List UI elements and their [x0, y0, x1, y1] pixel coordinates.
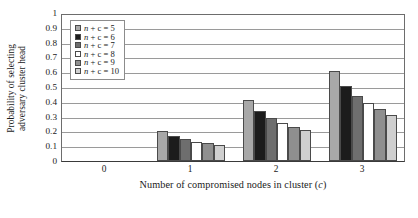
- bar-group: [234, 14, 320, 161]
- legend-swatch: [75, 42, 81, 48]
- y-axis-tick-label: 0: [52, 157, 57, 166]
- y-axis-tick-label: 0.1: [46, 143, 57, 152]
- x-axis-title-main: Number of compromised nodes in cluster (: [140, 179, 319, 190]
- y-axis-tick-label: 0.6: [46, 69, 57, 78]
- bar: [254, 111, 265, 161]
- y-axis-tick-label: 0.9: [46, 24, 57, 33]
- bar: [288, 127, 299, 161]
- legend-swatch: [75, 68, 81, 74]
- bar: [386, 115, 397, 161]
- y-axis-title-line-1: Probability of selecting: [6, 44, 17, 133]
- y-axis-tick-label: 0.5: [46, 83, 57, 92]
- y-axis-tick-label: 0.4: [46, 98, 57, 107]
- bar: [157, 131, 168, 161]
- y-axis-title-line-2: adversary cluster head: [17, 44, 28, 133]
- bar: [243, 100, 254, 161]
- x-axis-tick-label: 0: [102, 164, 107, 175]
- legend-swatch: [75, 51, 81, 57]
- legend-label: n + c = 10: [84, 67, 119, 76]
- bar: [202, 143, 213, 161]
- x-axis-tick-label: 1: [188, 164, 193, 175]
- legend-swatch: [75, 60, 81, 66]
- y-axis-tick-label: 1: [52, 9, 57, 18]
- bar: [300, 130, 311, 161]
- bar: [374, 109, 385, 161]
- y-axis-tick-label: 0.8: [46, 39, 57, 48]
- bar: [168, 136, 179, 161]
- bar: [340, 86, 351, 161]
- bar-group: [148, 14, 234, 161]
- plot-area: n + c = 5n + c = 6n + c = 7n + c = 8n + …: [61, 14, 405, 162]
- bar: [266, 118, 277, 161]
- y-axis-tick-label: 0.2: [46, 128, 57, 137]
- bar-group: [320, 14, 406, 161]
- x-axis-title: Number of compromised nodes in cluster (…: [61, 179, 405, 191]
- x-axis-tick-labels: 0123: [61, 164, 405, 178]
- bar: [352, 96, 363, 161]
- y-axis-tick-label: 0.3: [46, 113, 57, 122]
- y-axis-tick-label: 0.7: [46, 54, 57, 63]
- bar: [363, 103, 374, 161]
- legend: n + c = 5n + c = 6n + c = 7n + c = 8n + …: [70, 20, 125, 80]
- x-axis-title-tail: ): [323, 179, 327, 190]
- bar: [277, 123, 288, 161]
- y-axis-tick-labels: 00.10.20.30.40.50.60.70.80.91: [28, 14, 61, 162]
- bar-chart-figure: Probability of selecting adversary clust…: [0, 0, 418, 218]
- bar: [329, 71, 340, 161]
- legend-swatch: [75, 25, 81, 31]
- x-axis-tick-label: 3: [360, 164, 365, 175]
- legend-swatch: [75, 34, 81, 40]
- bar: [180, 139, 191, 161]
- bar: [191, 142, 202, 161]
- bar: [214, 145, 225, 161]
- x-axis-tick-label: 2: [274, 164, 279, 175]
- legend-item: n + c = 10: [75, 67, 119, 76]
